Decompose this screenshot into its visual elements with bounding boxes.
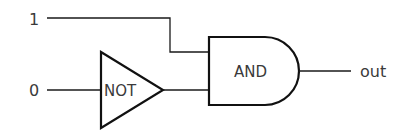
logic-circuit-diagram: 1 0 NOT AND out <box>0 0 413 134</box>
and-gate-label: AND <box>234 63 267 81</box>
not-gate: NOT <box>101 52 163 128</box>
and-gate: AND <box>209 37 299 105</box>
output-label: out <box>360 62 386 81</box>
not-gate-label: NOT <box>104 82 137 100</box>
input-1-label: 1 <box>29 10 39 29</box>
input-0-label: 0 <box>29 81 39 100</box>
input-1-wire <box>47 18 209 52</box>
